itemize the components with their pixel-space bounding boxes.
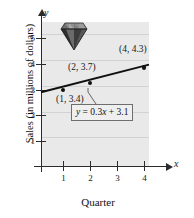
- gem-icon: [57, 19, 91, 51]
- gridline-4: [41, 60, 149, 61]
- equation-body: = 0.3: [80, 107, 102, 117]
- y-tick-2: [36, 115, 46, 116]
- x-tick-label-1: 1: [58, 173, 70, 183]
- data-point-label-3: (4, 4.3): [119, 44, 147, 54]
- y-tick-3: [36, 90, 46, 91]
- x-tick-label-2: 2: [85, 173, 97, 183]
- chart-figure: y x 1 2 3 4 5 1 2 3 4 (1, 3.4) (2, 3.7) …: [0, 0, 194, 218]
- x-tick-label-3: 3: [112, 173, 124, 183]
- data-point-3: [142, 65, 147, 70]
- x-tick-2: [90, 161, 91, 171]
- y-tick-5: [36, 38, 46, 39]
- x-tick-label-4: 4: [139, 173, 151, 183]
- x-tick-4: [144, 161, 145, 171]
- y-axis-symbol: y: [44, 7, 48, 18]
- data-point-label-1: (1, 3.4): [56, 94, 84, 104]
- x-tick-3: [117, 161, 118, 171]
- gridline-3: [41, 86, 149, 87]
- y-tick-1: [36, 141, 46, 142]
- y-axis-title: Sales (in millions of dollars): [24, 0, 35, 169]
- equation-tail: + 3.1: [106, 107, 128, 117]
- x-tick-1: [63, 161, 64, 171]
- x-axis-line: [34, 166, 167, 167]
- data-point-label-2: (2, 3.7): [68, 62, 96, 72]
- equation-label: y = 0.3x + 3.1: [71, 104, 133, 121]
- gridline-1: [41, 137, 149, 138]
- x-axis-title: Quarter: [58, 196, 138, 208]
- y-tick-4: [36, 64, 46, 65]
- x-axis-arrow: [166, 163, 173, 171]
- x-axis-symbol: x: [174, 158, 178, 169]
